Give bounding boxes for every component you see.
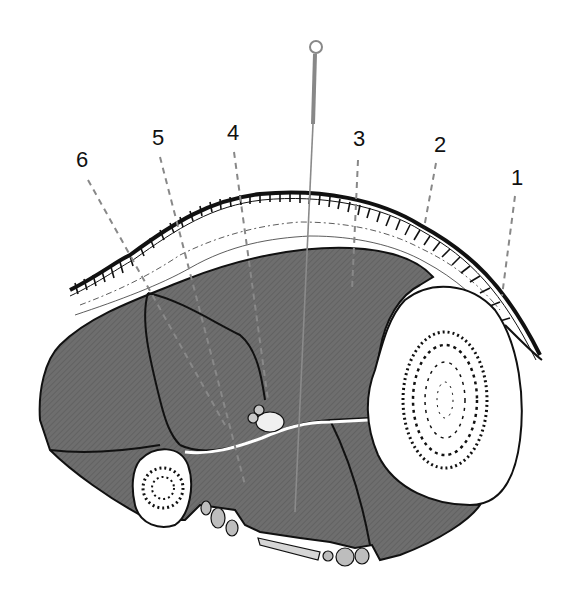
cross-section-diagram xyxy=(0,0,569,605)
label-3: 3 xyxy=(353,128,365,150)
leader-line-2 xyxy=(424,163,436,228)
label-1: 1 xyxy=(511,167,523,189)
needle-ring-icon xyxy=(310,41,322,53)
label-2: 2 xyxy=(434,134,446,156)
diagram-stage: 1 2 3 4 5 6 xyxy=(0,0,569,605)
leader-line-1 xyxy=(502,196,515,296)
tibia-bone xyxy=(368,287,522,505)
fibula-bone xyxy=(133,449,191,526)
label-6: 6 xyxy=(76,149,88,171)
label-5: 5 xyxy=(152,127,164,149)
label-4: 4 xyxy=(227,122,239,144)
needle-handle xyxy=(313,54,315,124)
